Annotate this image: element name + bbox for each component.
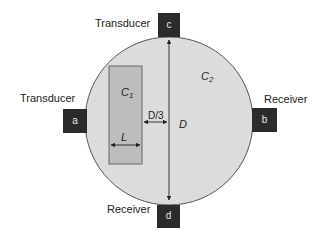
sensor-d-id: d xyxy=(157,211,180,221)
sensor-a-id: a xyxy=(63,116,87,126)
inclusion-label: C1 xyxy=(121,87,133,100)
diameter-label: D xyxy=(179,119,187,130)
medium-label: C2 xyxy=(201,71,213,84)
sensor-d-role: Receiver xyxy=(107,204,150,215)
width-label: L xyxy=(121,132,127,143)
offset-label: D/3 xyxy=(148,111,164,121)
sensor-c-id: c xyxy=(158,20,180,30)
sensor-b-role: Receiver xyxy=(264,94,307,105)
sensor-b-id: b xyxy=(252,115,277,125)
inclusion-rect xyxy=(109,66,142,164)
sensor-a-role: Transducer xyxy=(20,93,75,104)
sensor-c-role: Transducer xyxy=(95,18,150,29)
